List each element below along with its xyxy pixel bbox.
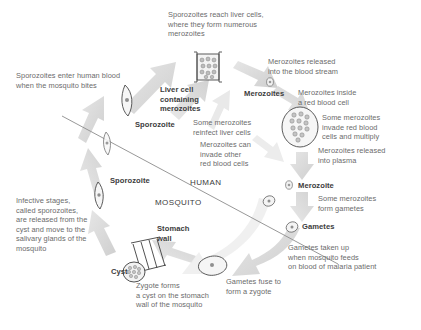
label-stomach-wall: Stomach wall [157,224,189,243]
zone-label-human: HUMAN [190,178,221,188]
caption-merozoites-inside-rbc: Merozoites inside a red blood cell [298,88,356,107]
merozoite-icon-right [286,181,293,189]
liver-cell-icon [194,52,222,82]
sporozoite-icon-top [122,85,132,116]
caption-zygote-forms-cyst: Zygote forms a cyst on the stomach wall … [136,281,209,310]
caption-merozoites-released-blood: Merozoites released into the blood strea… [268,57,338,76]
caption-merozoites-invade-other-rbc: Merozoites can invade other red blood ce… [200,140,251,169]
label-cyst: Cyst [111,267,128,277]
arrow-cyst-to-sporozoite [88,210,116,256]
label-liver-cell: Liver cell containing merozoites [160,85,201,114]
caption-some-merozoites-form-gametes: Some merozoites form gametes [318,194,376,213]
caption-gametes-fuse: Gametes fuse to form a zygote [226,277,281,296]
caption-some-merozoites-reinfect-liver: Some merozoites reinfect liver cells [193,118,251,137]
caption-merozoites-released-plasma: Merozoites released into plasma [318,146,386,165]
merozoite-icon-top [267,78,274,86]
sporozoite-icon-lowerleft [104,132,111,155]
caption-some-merozoites-invade-rbc: Some merozoites invade red blood cells a… [322,113,380,142]
label-merozoite-right: Merozoite [298,181,334,191]
malaria-life-cycle-diagram: Sporozoites reach liver cells, where the… [0,0,421,330]
sporozoite-icon-left [95,182,103,209]
arrow-rbc-to-plasma [290,152,314,180]
caption-infective-stages: Infective stages, called sporozoites, ar… [16,196,87,254]
label-merozoites-top: Merozoites [244,89,284,99]
caption-sporozoites-reach-liver: Sporozoites reach liver cells, where the… [168,10,264,39]
label-sporozoite-top: Sporozoite [135,120,175,130]
label-sporozoite-left: Sporozoite [110,176,150,186]
zone-label-mosquito: MOSQUITO [155,198,202,208]
label-gametes: Gametes [302,222,334,232]
caption-sporozoites-enter-blood: Sporozoites enter human blood when the m… [16,71,120,90]
arrow-invade-other-rbc [252,135,284,162]
caption-gametes-taken-up: Gametes taken up when mosquito feeds on … [288,243,376,272]
red-blood-cell-icon [282,107,318,147]
arrow-merozoite-to-gametes [290,192,314,222]
